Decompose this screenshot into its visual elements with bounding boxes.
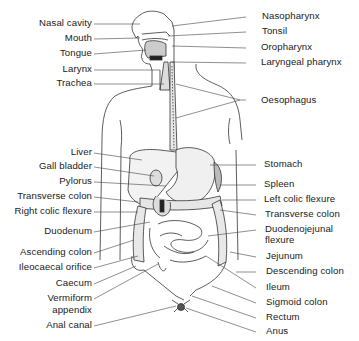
label-ileum: Ileum: [266, 281, 290, 292]
label-jejunum: Jejunum: [266, 250, 303, 261]
label-nasopharynx: Nasopharynx: [262, 10, 320, 21]
label-trachea: Trachea: [56, 77, 92, 88]
label-anus: Anus: [266, 325, 288, 336]
label-descending-colon: Descending colon: [266, 265, 344, 276]
tongue-shape: [145, 41, 166, 58]
label-oesophagus: Oesophagus: [261, 94, 316, 105]
anus: [178, 304, 185, 311]
label-tonsil: Tonsil: [262, 25, 287, 36]
label-tongue: Tongue: [60, 47, 92, 58]
label-duodenum: Duodenum: [44, 225, 92, 236]
label-caecum: Caecum: [56, 277, 92, 288]
label-liver: Liver: [71, 146, 92, 157]
descending-colon: [212, 200, 227, 266]
spleen: [214, 162, 221, 192]
appendix: [158, 262, 166, 271]
label-oropharynx: Oropharynx: [261, 41, 312, 52]
ascending-colon: [133, 206, 146, 262]
label-flexure: flexure: [265, 234, 295, 245]
label-right-colic-flexure: Right colic flexure: [14, 205, 92, 216]
label-sigmoid-colon: Sigmoid colon: [266, 296, 328, 307]
label-spleen: Spleen: [264, 178, 294, 189]
digestive-system-diagram: Nasal cavity Mouth Tongue Larynx Trachea…: [0, 0, 359, 341]
label-anal-canal: Anal canal: [46, 319, 92, 330]
label-nasal-cavity: Nasal cavity: [39, 17, 92, 28]
label-transverse-colon-right: Transverse colon: [265, 208, 340, 219]
label-left-colic-flexure: Left colic flexure: [264, 193, 335, 204]
label-appendix: appendix: [52, 304, 92, 315]
gall-bladder: [150, 170, 162, 186]
label-vermiform: Vermiform: [47, 292, 92, 303]
label-pylorus: Pylorus: [59, 175, 92, 186]
label-stomach: Stomach: [264, 158, 303, 169]
label-ascending-colon: Ascending colon: [20, 246, 92, 257]
label-ileocaecal-orifice: Ileocaecal orifice: [19, 261, 92, 272]
label-gall-bladder: Gall bladder: [39, 160, 92, 171]
label-transverse-colon-left: Transverse colon: [17, 190, 92, 201]
label-laryngeal-pharynx: Laryngeal pharynx: [261, 56, 342, 67]
label-duodenojejunal: Duodenojejunal: [265, 223, 333, 234]
oesophagus-tube: [170, 62, 177, 150]
small-intestine: [158, 221, 208, 263]
label-larynx: Larynx: [63, 63, 92, 74]
label-rectum: Rectum: [266, 311, 300, 322]
label-mouth: Mouth: [65, 32, 92, 43]
